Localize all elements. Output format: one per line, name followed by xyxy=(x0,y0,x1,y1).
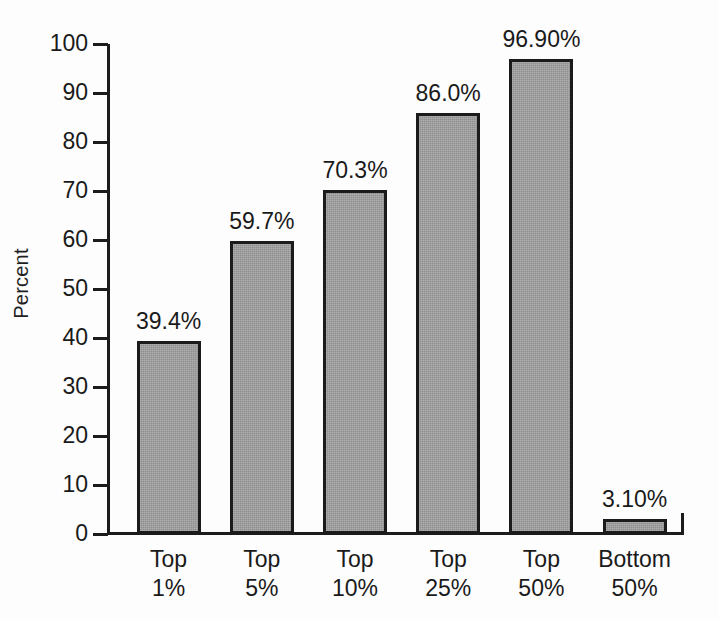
x-axis-category-label-line1: Top xyxy=(243,546,280,572)
bar-value-label: 86.0% xyxy=(378,82,518,105)
bar-value-label: 3.10% xyxy=(565,488,705,511)
x-axis-category-label-line1: Bottom xyxy=(598,546,671,572)
bar[interactable] xyxy=(603,519,667,534)
bar[interactable] xyxy=(137,341,201,534)
bar[interactable] xyxy=(416,113,480,534)
plot-area: 39.4%Top1%59.7%Top5%70.3%Top10%86.0%Top2… xyxy=(0,0,718,619)
bar-value-label: 39.4% xyxy=(99,310,239,333)
bar-value-label: 96.90% xyxy=(471,28,611,51)
x-axis-category-label-line1: Top xyxy=(150,546,187,572)
bar-chart: Percent 0102030405060708090100 39.4%Top1… xyxy=(0,0,718,619)
x-axis-category-label-line1: Top xyxy=(336,546,373,572)
x-axis-category-label-line2: 50% xyxy=(565,574,705,603)
bar[interactable] xyxy=(509,59,573,534)
x-axis-category-label-line1: Top xyxy=(430,546,467,572)
bar-value-label: 59.7% xyxy=(192,210,332,233)
bar[interactable] xyxy=(323,190,387,534)
x-axis-category-label: Bottom50% xyxy=(565,545,705,603)
x-axis-category-label-line1: Top xyxy=(523,546,560,572)
bar[interactable] xyxy=(230,241,294,534)
bar-value-label: 70.3% xyxy=(285,159,425,182)
